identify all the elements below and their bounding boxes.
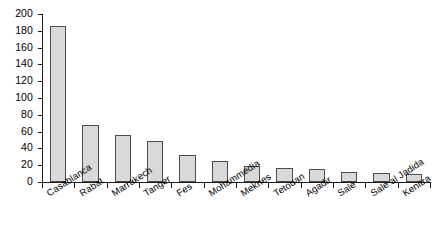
x-tick-mark	[139, 183, 140, 188]
y-tick-label: 0	[27, 176, 33, 187]
y-tick-label: 200	[15, 8, 33, 19]
x-tick-mark	[204, 183, 205, 188]
x-tick-mark	[74, 183, 75, 188]
x-tick-mark	[268, 183, 269, 188]
y-tick-label: 160	[15, 42, 33, 53]
bar	[179, 155, 195, 182]
x-tick-mark	[236, 183, 237, 188]
y-tick-label: 60	[21, 126, 33, 137]
y-tick-label: 140	[15, 58, 33, 69]
bar	[50, 26, 66, 182]
y-tick-label: 80	[21, 109, 33, 120]
y-tick-label: 120	[15, 75, 33, 86]
x-tick-mark	[171, 183, 172, 188]
x-tick-mark	[430, 183, 431, 188]
y-tick-label: 40	[21, 142, 33, 153]
x-tick-mark	[398, 183, 399, 188]
bar-chart: 020406080100120140160180200 CasablancaRa…	[0, 0, 447, 250]
y-tick-label: 20	[21, 159, 33, 170]
x-tick-mark	[107, 183, 108, 188]
bar	[115, 135, 131, 182]
plot-area	[42, 14, 430, 182]
y-tick-label: 180	[15, 25, 33, 36]
x-axis-label: Fes	[175, 181, 194, 198]
y-tick-label: 100	[15, 92, 33, 103]
x-tick-mark	[301, 183, 302, 188]
x-tick-mark	[333, 183, 334, 188]
x-tick-mark	[365, 183, 366, 188]
x-tick-mark	[42, 183, 43, 188]
